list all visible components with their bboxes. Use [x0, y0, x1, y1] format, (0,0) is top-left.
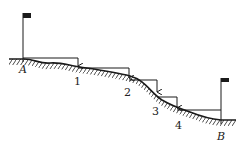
label-4: 4 — [175, 119, 182, 132]
label-3: 3 — [152, 105, 159, 118]
ground-profile — [9, 59, 236, 126]
label-2: 2 — [124, 86, 131, 99]
flag-a-icon — [23, 13, 31, 62]
flag-b-icon — [221, 78, 229, 124]
label-b: B — [216, 130, 225, 143]
leveling-diagram: A 1 2 3 4 B — [0, 0, 240, 144]
label-a: A — [18, 63, 27, 76]
label-1: 1 — [74, 75, 81, 88]
